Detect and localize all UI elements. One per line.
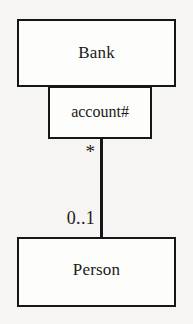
multiplicity-label-source: * [62, 142, 95, 161]
class-name-person: Person [73, 261, 120, 278]
association-line [100, 138, 103, 238]
class-name-bank: Bank [78, 44, 115, 61]
association-qualifier-account[interactable]: account# [48, 86, 152, 139]
uml-class-bank[interactable]: Bank [17, 19, 176, 87]
qualifier-label: account# [71, 104, 129, 120]
uml-class-person[interactable]: Person [17, 237, 176, 307]
uml-diagram-canvas: Bank account# * 0..1 Person [0, 0, 193, 324]
multiplicity-label-target: 0..1 [44, 209, 95, 227]
